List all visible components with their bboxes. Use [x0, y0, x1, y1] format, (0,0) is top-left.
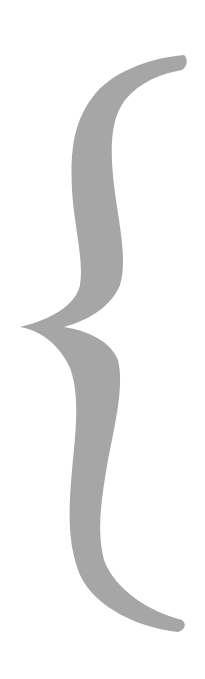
- curly-brace-shape: [20, 55, 187, 632]
- left-curly-brace-icon: [0, 0, 205, 679]
- brace-canvas: [0, 0, 205, 679]
